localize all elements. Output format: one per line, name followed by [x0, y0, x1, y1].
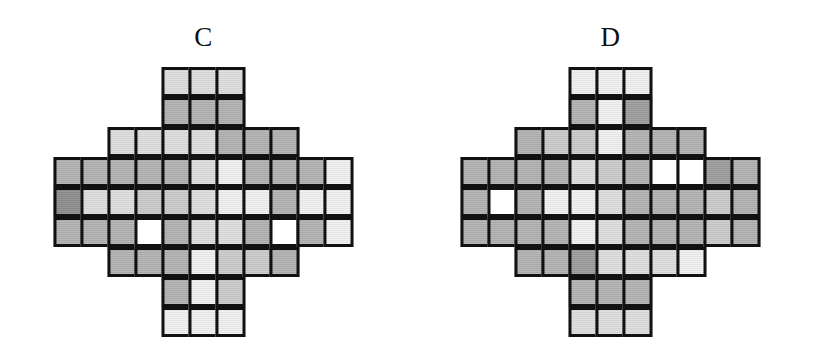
cell-texture — [572, 100, 596, 124]
grid-cell — [162, 187, 192, 217]
cell-texture — [273, 190, 297, 214]
cell-texture — [707, 190, 731, 214]
cell-texture — [491, 160, 515, 184]
cell-texture — [273, 130, 297, 154]
grid-cell — [650, 187, 680, 217]
cell-texture — [518, 160, 542, 184]
figure-label-d: D — [407, 22, 814, 52]
cell-texture — [111, 160, 135, 184]
cell-texture — [464, 220, 488, 244]
cell-grid-c — [55, 68, 352, 338]
cell-grid-d — [462, 68, 759, 338]
grid-cell — [569, 187, 599, 217]
cell-texture — [599, 70, 623, 94]
cell-texture — [327, 220, 351, 244]
cell-texture — [111, 220, 135, 244]
cell-texture — [84, 190, 108, 214]
cell-texture — [165, 130, 189, 154]
grid-cell — [677, 217, 707, 247]
cell-texture — [192, 220, 216, 244]
cell-texture — [219, 310, 243, 334]
grid-cell — [189, 277, 219, 307]
cell-texture — [599, 130, 623, 154]
grid-cell — [243, 157, 273, 187]
cell-texture — [545, 190, 569, 214]
grid-row — [55, 308, 352, 338]
cell-texture — [572, 220, 596, 244]
cell-texture — [734, 190, 758, 214]
grid-cell — [569, 67, 599, 97]
cell-texture — [626, 130, 650, 154]
figure-canvas: C D — [0, 0, 814, 364]
cell-texture — [219, 220, 243, 244]
cell-texture — [138, 160, 162, 184]
cell-texture — [327, 160, 351, 184]
cell-texture — [111, 250, 135, 274]
cell-texture — [464, 190, 488, 214]
grid-row — [55, 248, 352, 278]
grid-cell — [135, 187, 165, 217]
cell-texture — [165, 310, 189, 334]
cell-texture — [165, 220, 189, 244]
grid-cell — [216, 67, 246, 97]
cell-texture — [572, 160, 596, 184]
cell-texture — [246, 160, 270, 184]
grid-cell — [216, 187, 246, 217]
grid-cell — [216, 247, 246, 277]
cell-texture — [572, 250, 596, 274]
cell-texture — [680, 130, 704, 154]
figure-label-c: C — [0, 22, 407, 52]
grid-cell — [162, 97, 192, 127]
grid-cell — [461, 187, 491, 217]
grid-cell — [515, 127, 545, 157]
grid-cell — [731, 157, 761, 187]
cell-texture — [165, 280, 189, 304]
cell-texture — [192, 190, 216, 214]
cell-texture — [464, 160, 488, 184]
cell-texture — [599, 250, 623, 274]
grid-row — [55, 68, 352, 98]
grid-cell — [569, 157, 599, 187]
cell-texture — [626, 250, 650, 274]
cell-texture — [219, 130, 243, 154]
cell-texture — [545, 160, 569, 184]
grid-cell — [731, 217, 761, 247]
cell-texture — [734, 160, 758, 184]
grid-row — [55, 278, 352, 308]
cell-texture — [572, 130, 596, 154]
grid-wrapper-d — [407, 68, 814, 348]
cell-texture — [138, 190, 162, 214]
grid-cell — [108, 187, 138, 217]
cell-texture — [165, 190, 189, 214]
cell-texture — [545, 220, 569, 244]
grid-cell — [54, 187, 84, 217]
cell-texture — [680, 220, 704, 244]
grid-cell — [677, 187, 707, 217]
cell-texture — [192, 160, 216, 184]
cell-texture — [192, 130, 216, 154]
grid-cell — [488, 217, 518, 247]
grid-cell — [243, 127, 273, 157]
grid-cell — [596, 307, 626, 337]
grid-cell — [270, 247, 300, 277]
grid-cell — [650, 247, 680, 277]
grid-cell — [135, 217, 165, 247]
cell-texture — [165, 160, 189, 184]
grid-wrapper-c — [0, 68, 407, 348]
cell-texture — [626, 310, 650, 334]
grid-cell — [542, 217, 572, 247]
cell-texture — [626, 220, 650, 244]
grid-cell — [704, 157, 734, 187]
grid-cell — [488, 157, 518, 187]
grid-row — [462, 158, 759, 188]
cell-texture — [111, 130, 135, 154]
grid-cell — [297, 157, 327, 187]
cell-texture — [599, 310, 623, 334]
grid-cell — [623, 247, 653, 277]
grid-cell — [243, 217, 273, 247]
grid-row — [55, 128, 352, 158]
grid-cell — [189, 217, 219, 247]
cell-texture — [246, 250, 270, 274]
cell-texture — [219, 190, 243, 214]
cell-texture — [300, 160, 324, 184]
